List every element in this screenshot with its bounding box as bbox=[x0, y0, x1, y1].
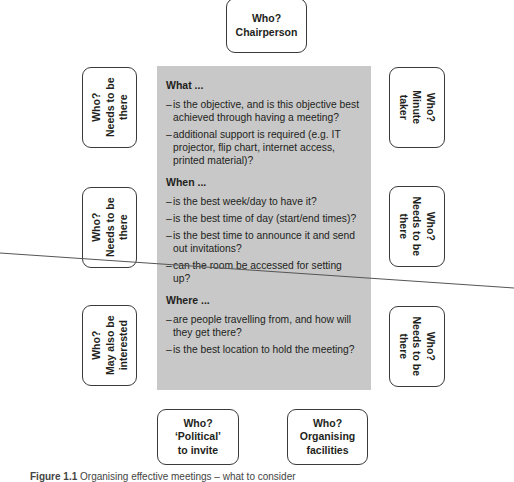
figure-caption: Figure 1.1 Organising effective meetings… bbox=[30, 471, 296, 482]
figure-caption-text: Organising effective meetings – what to … bbox=[80, 471, 296, 482]
figure-label: Figure 1.1 bbox=[30, 471, 77, 482]
